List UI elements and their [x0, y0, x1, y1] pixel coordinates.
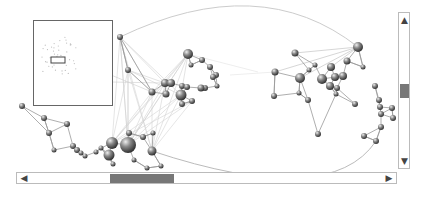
horizontal-scroll-thumb[interactable] [110, 174, 174, 183]
graph-viewport[interactable] [0, 0, 398, 172]
vertical-scrollbar[interactable]: ▲ ▼ [398, 12, 410, 169]
scroll-down-icon[interactable]: ▼ [400, 156, 409, 166]
overview-thumbnail [34, 21, 112, 105]
scroll-right-icon[interactable]: ▶ [384, 173, 394, 183]
overview-map[interactable] [33, 20, 113, 106]
vertical-scroll-thumb[interactable] [400, 84, 409, 98]
horizontal-scrollbar[interactable]: ◀ ▶ [16, 172, 397, 184]
scroll-up-icon[interactable]: ▲ [400, 15, 409, 25]
scroll-left-icon[interactable]: ◀ [19, 173, 29, 183]
